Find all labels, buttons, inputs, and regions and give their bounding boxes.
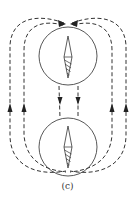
field-line-left-outer bbox=[10, 18, 66, 172]
top-compass bbox=[39, 27, 97, 85]
arrow-icon-center-left-down bbox=[58, 97, 63, 105]
arrow-icon-left-inner-up bbox=[22, 103, 27, 112]
arrow-icon-right-outer-up bbox=[124, 103, 129, 112]
figure-caption: (c) bbox=[0, 181, 135, 191]
arrow-icon-top-right bbox=[70, 20, 78, 27]
arrow-icon-right-inner-up bbox=[110, 103, 115, 112]
magnetic-field-diagram bbox=[0, 0, 135, 200]
arrow-icon-left-outer-up bbox=[8, 103, 13, 112]
arrow-icon-top-left bbox=[58, 20, 66, 27]
bottom-compass bbox=[39, 118, 97, 176]
arrow-icon-center-right-down bbox=[76, 97, 81, 105]
